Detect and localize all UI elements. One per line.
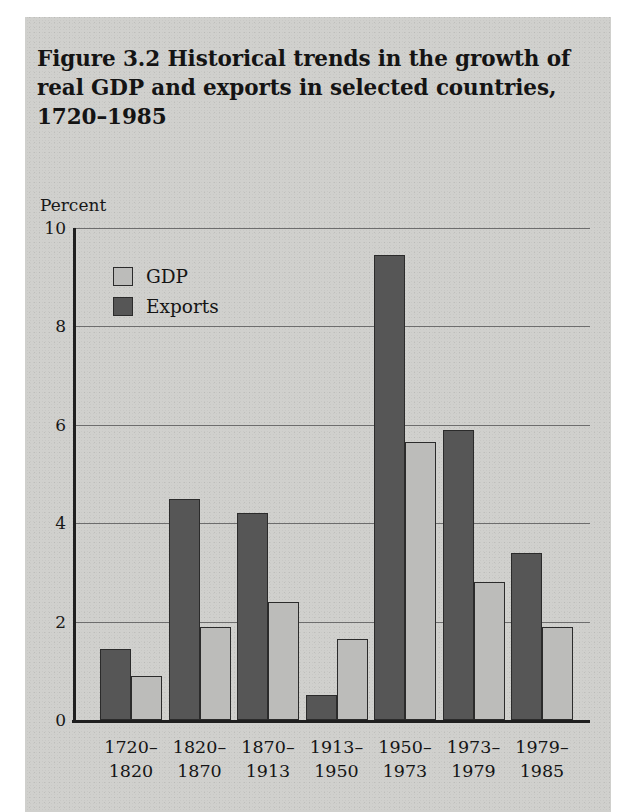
legend-item-exports: Exports	[113, 291, 219, 321]
bar-exports-1950-1973	[374, 255, 405, 720]
x-axis-category-labels: 1720– 18201820– 18701870– 19131913– 1950…	[73, 735, 590, 795]
y-axis-line	[73, 228, 76, 720]
y-tick-label-6: 6	[55, 415, 66, 435]
legend-label-gdp: GDP	[146, 266, 188, 287]
y-tick-label-8: 8	[55, 316, 66, 336]
bar-gdp-1720-1820	[131, 676, 162, 720]
legend-item-gdp: GDP	[113, 261, 219, 291]
bar-gdp-1870-1913	[268, 602, 299, 720]
figure-panel: Figure 3.2 Historical trends in the grow…	[25, 17, 611, 812]
bar-gdp-1820-1870	[200, 627, 231, 720]
x-axis-line	[72, 720, 590, 723]
legend-swatch-exports	[113, 297, 133, 316]
chart-legend: GDP Exports	[113, 261, 219, 321]
bar-exports-1820-1870	[169, 499, 200, 720]
y-tick-label-2: 2	[55, 612, 66, 632]
bar-gdp-1973-1979	[474, 582, 505, 720]
y-tick-label-4: 4	[55, 513, 66, 533]
bar-exports-1913-1950	[306, 695, 337, 720]
legend-swatch-gdp	[113, 267, 133, 286]
bar-exports-1973-1979	[443, 430, 474, 720]
y-axis-unit-label: Percent	[40, 195, 106, 215]
bar-gdp-1950-1973	[405, 442, 436, 720]
figure-title: Figure 3.2 Historical trends in the grow…	[37, 44, 582, 131]
bar-gdp-1913-1950	[337, 639, 368, 720]
x-tick-label-1979-1985: 1979– 1985	[502, 735, 582, 783]
y-tick-label-10: 10	[44, 218, 66, 238]
legend-label-exports: Exports	[146, 296, 219, 317]
y-tick-label-0: 0	[55, 710, 66, 730]
bar-exports-1720-1820	[100, 649, 131, 720]
bar-exports-1979-1985	[511, 553, 542, 720]
bar-gdp-1979-1985	[542, 627, 573, 720]
bar-exports-1870-1913	[237, 513, 268, 720]
